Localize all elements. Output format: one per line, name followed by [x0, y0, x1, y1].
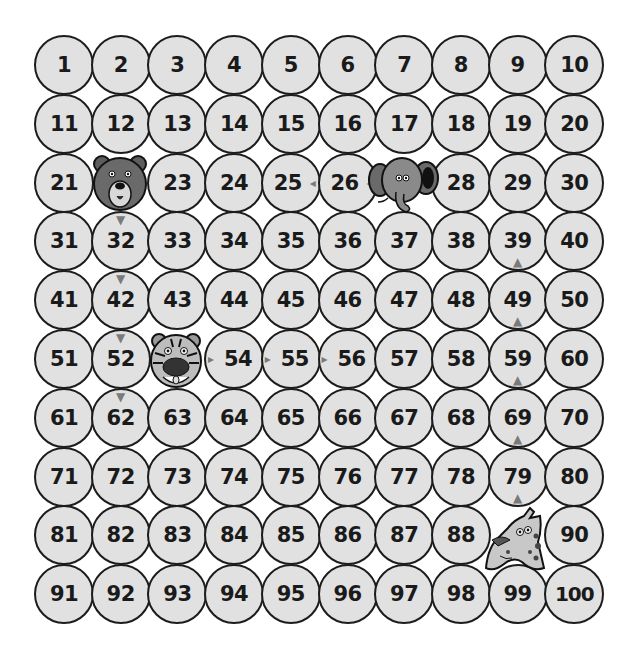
number-cell-83[interactable]: 83 — [147, 505, 207, 565]
number-cell-85[interactable]: 85 — [261, 505, 321, 565]
number-cell-39[interactable]: 39▲ — [488, 211, 548, 271]
number-cell-29[interactable]: 29 — [488, 153, 548, 213]
number-cell-32[interactable]: 32▼ — [91, 211, 151, 271]
number-cell-1[interactable]: 1 — [34, 35, 94, 95]
cell-number: 2 — [114, 53, 128, 77]
number-cell-97[interactable]: 97 — [374, 564, 434, 624]
number-cell-20[interactable]: 20 — [544, 94, 604, 154]
number-cell-4[interactable]: 4 — [204, 35, 264, 95]
number-cell-7[interactable]: 7 — [374, 35, 434, 95]
number-cell-78[interactable]: 78 — [431, 447, 491, 507]
number-cell-100[interactable]: 100 — [544, 564, 604, 624]
number-cell-61[interactable]: 61 — [34, 388, 94, 448]
number-cell-23[interactable]: 23 — [147, 153, 207, 213]
cell-number: 17 — [390, 112, 418, 136]
number-cell-84[interactable]: 84 — [204, 505, 264, 565]
number-cell-6[interactable]: 6 — [318, 35, 378, 95]
bear-icon[interactable] — [88, 150, 152, 218]
number-cell-3[interactable]: 3 — [147, 35, 207, 95]
number-cell-56[interactable]: 56▸ — [318, 329, 378, 389]
number-cell-5[interactable]: 5 — [261, 35, 321, 95]
cell-number: 29 — [503, 171, 531, 195]
number-cell-87[interactable]: 87 — [374, 505, 434, 565]
number-cell-40[interactable]: 40 — [544, 211, 604, 271]
number-cell-35[interactable]: 35 — [261, 211, 321, 271]
number-cell-49[interactable]: 49▲ — [488, 270, 548, 330]
number-cell-17[interactable]: 17 — [374, 94, 434, 154]
number-cell-30[interactable]: 30 — [544, 153, 604, 213]
number-cell-86[interactable]: 86 — [318, 505, 378, 565]
number-cell-43[interactable]: 43 — [147, 270, 207, 330]
number-cell-50[interactable]: 50 — [544, 270, 604, 330]
number-cell-73[interactable]: 73 — [147, 447, 207, 507]
number-cell-51[interactable]: 51 — [34, 329, 94, 389]
number-cell-67[interactable]: 67 — [374, 388, 434, 448]
cell-number: 82 — [107, 523, 135, 547]
number-cell-12[interactable]: 12 — [91, 94, 151, 154]
number-cell-65[interactable]: 65 — [261, 388, 321, 448]
number-cell-80[interactable]: 80 — [544, 447, 604, 507]
number-cell-14[interactable]: 14 — [204, 94, 264, 154]
number-cell-62[interactable]: 62▼ — [91, 388, 151, 448]
number-cell-74[interactable]: 74 — [204, 447, 264, 507]
number-cell-25[interactable]: 25◂ — [261, 153, 321, 213]
number-cell-2[interactable]: 2 — [91, 35, 151, 95]
number-cell-76[interactable]: 76 — [318, 447, 378, 507]
number-cell-38[interactable]: 38 — [431, 211, 491, 271]
number-cell-77[interactable]: 77 — [374, 447, 434, 507]
number-cell-68[interactable]: 68 — [431, 388, 491, 448]
number-cell-8[interactable]: 8 — [431, 35, 491, 95]
elephant-icon[interactable] — [366, 152, 440, 220]
number-cell-15[interactable]: 15 — [261, 94, 321, 154]
number-cell-21[interactable]: 21 — [34, 153, 94, 213]
number-cell-36[interactable]: 36 — [318, 211, 378, 271]
number-cell-58[interactable]: 58 — [431, 329, 491, 389]
number-cell-19[interactable]: 19 — [488, 94, 548, 154]
number-cell-66[interactable]: 66 — [318, 388, 378, 448]
number-cell-18[interactable]: 18 — [431, 94, 491, 154]
number-cell-70[interactable]: 70 — [544, 388, 604, 448]
number-cell-75[interactable]: 75 — [261, 447, 321, 507]
number-cell-10[interactable]: 10 — [544, 35, 604, 95]
tiger-icon[interactable] — [145, 329, 207, 395]
number-cell-54[interactable]: 54▸ — [204, 329, 264, 389]
number-cell-92[interactable]: 92 — [91, 564, 151, 624]
cell-number: 70 — [560, 406, 588, 430]
number-cell-42[interactable]: 42▼ — [91, 270, 151, 330]
number-cell-90[interactable]: 90 — [544, 505, 604, 565]
number-cell-44[interactable]: 44 — [204, 270, 264, 330]
number-cell-95[interactable]: 95 — [261, 564, 321, 624]
number-cell-96[interactable]: 96 — [318, 564, 378, 624]
number-cell-59[interactable]: 59▲ — [488, 329, 548, 389]
number-cell-72[interactable]: 72 — [91, 447, 151, 507]
number-cell-31[interactable]: 31 — [34, 211, 94, 271]
number-cell-52[interactable]: 52▼ — [91, 329, 151, 389]
number-cell-57[interactable]: 57 — [374, 329, 434, 389]
number-cell-81[interactable]: 81 — [34, 505, 94, 565]
number-cell-79[interactable]: 79▲ — [488, 447, 548, 507]
number-cell-82[interactable]: 82 — [91, 505, 151, 565]
number-cell-64[interactable]: 64 — [204, 388, 264, 448]
number-cell-41[interactable]: 41 — [34, 270, 94, 330]
number-cell-91[interactable]: 91 — [34, 564, 94, 624]
number-cell-37[interactable]: 37 — [374, 211, 434, 271]
number-cell-9[interactable]: 9 — [488, 35, 548, 95]
number-cell-48[interactable]: 48 — [431, 270, 491, 330]
number-cell-60[interactable]: 60 — [544, 329, 604, 389]
number-cell-69[interactable]: 69▲ — [488, 388, 548, 448]
number-cell-93[interactable]: 93 — [147, 564, 207, 624]
number-cell-71[interactable]: 71 — [34, 447, 94, 507]
number-cell-63[interactable]: 63 — [147, 388, 207, 448]
giraffe-icon[interactable] — [478, 506, 550, 578]
number-cell-94[interactable]: 94 — [204, 564, 264, 624]
number-cell-24[interactable]: 24 — [204, 153, 264, 213]
number-cell-55[interactable]: 55▸ — [261, 329, 321, 389]
number-cell-46[interactable]: 46 — [318, 270, 378, 330]
number-cell-16[interactable]: 16 — [318, 94, 378, 154]
number-cell-45[interactable]: 45 — [261, 270, 321, 330]
number-cell-47[interactable]: 47 — [374, 270, 434, 330]
number-cell-34[interactable]: 34 — [204, 211, 264, 271]
number-cell-11[interactable]: 11 — [34, 94, 94, 154]
number-cell-33[interactable]: 33 — [147, 211, 207, 271]
number-cell-13[interactable]: 13 — [147, 94, 207, 154]
